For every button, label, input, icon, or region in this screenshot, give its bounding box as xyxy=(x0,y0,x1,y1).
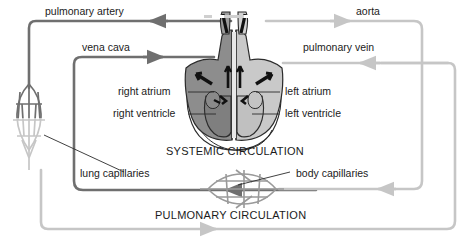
label-pulmonary-circulation: PULMONARY CIRCULATION xyxy=(155,209,306,221)
label-pulmonary-artery: pulmonary artery xyxy=(45,5,124,17)
label-aorta: aorta xyxy=(356,5,380,17)
label-body-capillaries: body capillaries xyxy=(296,167,368,179)
heart-illustration xyxy=(185,12,283,150)
label-left-atrium: left atrium xyxy=(285,85,331,97)
circulation-diagram: pulmonary artery aorta vena cava pulmona… xyxy=(0,0,468,247)
label-lung-capillaries: lung capillaries xyxy=(80,167,149,179)
label-systemic-circulation: SYSTEMIC CIRCULATION xyxy=(166,145,304,157)
lung-capillary-bed xyxy=(13,84,45,170)
label-right-ventricle: right ventricle xyxy=(113,107,175,119)
label-left-ventricle: left ventricle xyxy=(285,107,341,119)
label-vena-cava: vena cava xyxy=(82,41,130,53)
label-pulmonary-vein: pulmonary vein xyxy=(303,41,374,53)
label-right-atrium: right atrium xyxy=(118,85,171,97)
body-capillary-bed xyxy=(200,170,284,208)
